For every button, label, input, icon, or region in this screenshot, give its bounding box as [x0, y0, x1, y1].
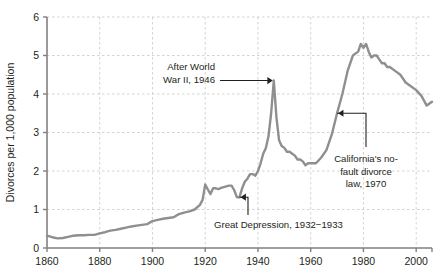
annotation-line: Great Depression, 1932−1933	[214, 219, 343, 230]
x-tick-label: 1900	[141, 255, 165, 267]
annotation-leader-great-depression	[240, 197, 249, 215]
x-tick-label: 1980	[352, 255, 376, 267]
x-tick-label: 1920	[194, 255, 218, 267]
chart-svg: 0123456 18601880190019201940196019802000…	[0, 0, 439, 280]
grid-lines	[47, 17, 432, 248]
annotation-leaders	[220, 77, 366, 215]
divorce-rate-chart: 0123456 18601880190019201940196019802000…	[0, 0, 439, 280]
axis-lines	[43, 17, 432, 252]
x-tick-label: 1960	[299, 255, 323, 267]
annotation-leader-california	[337, 113, 366, 147]
y-tick-label: 1	[33, 203, 39, 215]
x-tick-label: 2000	[404, 255, 428, 267]
x-tick-label: 1880	[88, 255, 112, 267]
y-tick-labels: 0123456	[33, 11, 39, 254]
annotation-ww2: After WorldWar II, 1946	[163, 61, 215, 85]
x-tick-labels: 18601880190019201940196019802000	[35, 255, 428, 267]
annotation-line: War II, 1946	[163, 74, 215, 85]
annotation-line: law, 1970	[346, 178, 387, 189]
y-tick-label: 5	[33, 49, 39, 61]
x-tick-label: 1860	[35, 255, 59, 267]
y-tick-label: 6	[33, 11, 39, 23]
annotation-line: After World	[167, 61, 215, 72]
y-tick-label: 2	[33, 165, 39, 177]
y-tick-label: 4	[33, 88, 39, 100]
y-tick-label: 0	[33, 242, 39, 254]
annotation-great-depression: Great Depression, 1932−1933	[214, 219, 343, 230]
annotation-california-no-fault: California's no-fault divorcelaw, 1970	[334, 153, 398, 189]
annotation-line: California's no-	[334, 153, 398, 164]
x-tick-label: 1940	[246, 255, 270, 267]
annotation-line: fault divorce	[340, 166, 392, 177]
annotation-arrowhead	[267, 77, 272, 84]
y-axis-title: Divorces per 1,000 population	[4, 63, 16, 203]
y-tick-label: 3	[33, 126, 39, 138]
y-axis-title-text: Divorces per 1,000 population	[4, 63, 16, 203]
